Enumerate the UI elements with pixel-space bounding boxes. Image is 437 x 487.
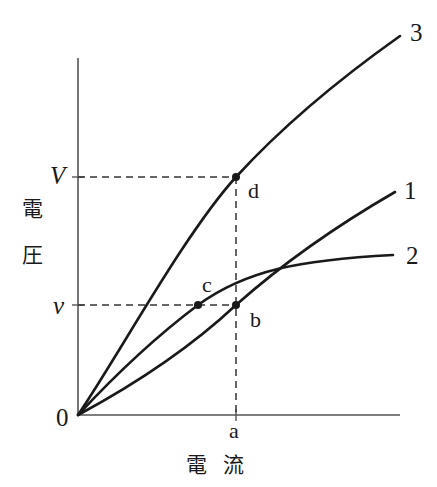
point-marker-c	[194, 301, 202, 309]
y-axis-title: 電 圧	[22, 192, 43, 268]
curve-label-2: 2	[406, 243, 419, 268]
x-axis-title: 電 流	[186, 448, 244, 478]
point-label-c: c	[202, 274, 212, 296]
point-label-b: b	[250, 309, 261, 331]
point-label-d: d	[248, 180, 259, 202]
x-axis-title-char-1: 電	[186, 448, 207, 478]
y-axis-title-char-2: 圧	[22, 238, 43, 268]
point-marker-b	[232, 301, 240, 309]
y-tick-label-v: v	[53, 293, 64, 318]
origin-label: 0	[56, 405, 69, 430]
curve-3-path	[78, 36, 400, 415]
voltage-current-figure: V v 0 a 1 2 3 b c d 電 圧 電 流	[0, 0, 437, 487]
y-tick-label-V: V	[50, 163, 65, 188]
x-axis-title-char-2: 流	[223, 448, 244, 478]
y-axis-title-char-1: 電	[22, 192, 43, 222]
curve-label-1: 1	[404, 178, 417, 203]
x-tick-label-a: a	[229, 420, 239, 442]
point-marker-d	[232, 173, 240, 181]
curve-label-3: 3	[410, 20, 423, 45]
